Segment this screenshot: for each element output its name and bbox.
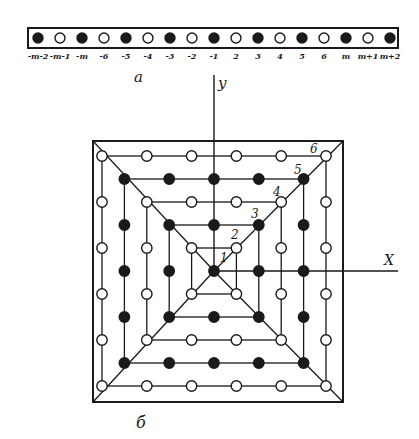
open-node (321, 151, 331, 161)
strip-tick-label: 6 (321, 51, 327, 61)
open-node (276, 151, 286, 161)
filled-node (164, 358, 174, 368)
filled-node (209, 266, 219, 276)
open-node (231, 289, 241, 299)
strip-tick-label: -5 (122, 51, 131, 61)
open-node (231, 381, 241, 391)
filled-dot (77, 33, 87, 43)
filled-node (298, 358, 308, 368)
ring-number-label: 4 (272, 185, 281, 199)
open-dot (319, 33, 329, 43)
filled-node (254, 358, 264, 368)
filled-node (119, 174, 129, 184)
open-node (276, 381, 286, 391)
strip-tick-label: -m-1 (50, 51, 71, 61)
strip-tick-label: -3 (166, 51, 175, 61)
open-node (97, 197, 107, 207)
open-node (142, 151, 152, 161)
filled-node (119, 312, 129, 322)
strip-tick-label: -4 (144, 51, 153, 61)
open-node (142, 381, 152, 391)
strip-tick-label: -m (76, 51, 88, 61)
filled-node (298, 312, 308, 322)
filled-node (164, 266, 174, 276)
diagram-figure: -m-2-m-1-m-6-5-4-3-2-123456mm+1m+2 a y X… (0, 0, 419, 439)
filled-node (298, 266, 308, 276)
open-dot (55, 33, 65, 43)
ring-number-label: 3 (251, 207, 259, 221)
open-node (321, 289, 331, 299)
filled-dot (121, 33, 131, 43)
filled-node (164, 174, 174, 184)
strip-tick-label: -1 (210, 51, 219, 61)
open-node (276, 243, 286, 253)
filled-node (254, 174, 264, 184)
part-b-label: б (136, 413, 146, 432)
open-node (97, 381, 107, 391)
open-node (186, 151, 196, 161)
open-dot (275, 33, 285, 43)
strip-labels: -m-2-m-1-m-6-5-4-3-2-123456mm+1m+2 (28, 51, 401, 61)
open-node (186, 243, 196, 253)
ring-number-label: 1 (220, 251, 228, 265)
filled-node (254, 266, 264, 276)
filled-node (164, 312, 174, 322)
ring-number-label: 5 (294, 163, 302, 177)
open-node (142, 335, 152, 345)
open-node (97, 243, 107, 253)
filled-node (298, 220, 308, 230)
filled-node (209, 312, 219, 322)
open-node (231, 151, 241, 161)
open-node (142, 289, 152, 299)
strip-tick-label: -6 (100, 51, 109, 61)
filled-dot (341, 33, 351, 43)
open-node (231, 335, 241, 345)
filled-node (209, 358, 219, 368)
strip-tick-label: 5 (299, 51, 305, 61)
open-dot (187, 33, 197, 43)
strip-tick-label: 4 (277, 51, 283, 61)
open-dot (143, 33, 153, 43)
filled-dot (385, 33, 395, 43)
strip-tick-label: m (342, 51, 350, 61)
filled-node (164, 220, 174, 230)
ring-number-label: 2 (230, 228, 239, 242)
filled-node (209, 220, 219, 230)
filled-dot (253, 33, 263, 43)
strip-tick-label: 2 (232, 51, 239, 61)
open-node (97, 335, 107, 345)
filled-node (209, 174, 219, 184)
filled-node (254, 220, 264, 230)
strip-tick-label: -2 (188, 51, 197, 61)
open-node (97, 151, 107, 161)
y-axis-label: y (217, 74, 227, 92)
open-node (97, 289, 107, 299)
open-node (231, 197, 241, 207)
strip-dots (33, 33, 395, 43)
filled-node (119, 220, 129, 230)
filled-dot (165, 33, 175, 43)
open-node (142, 197, 152, 207)
strip-tick-label: 3 (255, 51, 261, 61)
open-dot (99, 33, 109, 43)
filled-node (119, 266, 129, 276)
open-node (276, 335, 286, 345)
filled-dot (297, 33, 307, 43)
open-node (186, 381, 196, 391)
filled-dot (33, 33, 43, 43)
open-node (321, 335, 331, 345)
open-node (321, 381, 331, 391)
open-node (321, 197, 331, 207)
part-a-label: a (134, 68, 143, 86)
strip-tick-label: -m-2 (28, 51, 49, 61)
open-node (321, 243, 331, 253)
open-node (186, 335, 196, 345)
filled-dot (209, 33, 219, 43)
filled-node (119, 358, 129, 368)
x-axis-label: X (383, 252, 395, 268)
part-b-lattice: y X 123456 б (93, 74, 398, 432)
open-node (276, 289, 286, 299)
open-dot (363, 33, 373, 43)
strip-tick-label: m+2 (380, 51, 401, 61)
strip-tick-label: m+1 (358, 51, 379, 61)
